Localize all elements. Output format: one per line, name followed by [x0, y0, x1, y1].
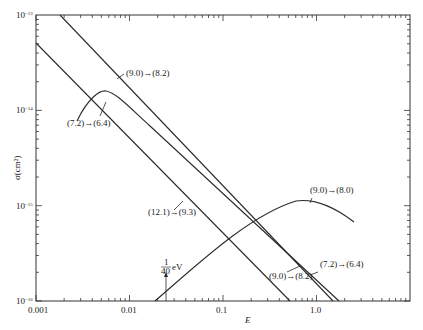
y-tick-label: 10−14 — [16, 105, 33, 115]
y-tick-label: 10−13 — [16, 10, 33, 20]
annotation-label: (12.1)→(9.3) — [148, 207, 196, 217]
curve-7.2-6.4 — [77, 91, 339, 301]
annotation-label: (7.2)→(6.4) — [320, 259, 364, 269]
y-axis-label: σ(cm²) — [12, 155, 22, 180]
svg-text:10−15: 10−15 — [16, 201, 33, 211]
curve-12.1-9.3 — [36, 43, 290, 301]
x-tick-label: 1.0 — [310, 305, 322, 315]
svg-text:10−14: 10−14 — [16, 105, 33, 115]
x-tick-label: 0.1 — [216, 305, 227, 315]
cross-section-chart: 0.001 0.01 0.1 1.0 E 10−13 10−14 10−15 1… — [0, 0, 423, 330]
svg-text:eV: eV — [172, 262, 183, 272]
annotation-label: (7.2)→(6.4) — [67, 118, 111, 128]
annotation-label: (9.0)→(8.2) — [269, 271, 313, 281]
x-axis-label: E — [244, 315, 251, 325]
x-tick-label: 0.01 — [121, 305, 137, 315]
svg-text:10−13: 10−13 — [16, 10, 33, 20]
annotation-label: (9.0)→(8.0) — [310, 185, 354, 195]
quarter-ev-label: 1 40 eV — [161, 257, 183, 276]
svg-text:40: 40 — [161, 266, 171, 276]
annotation-arrow — [310, 198, 312, 203]
x-tick-label: 0.001 — [28, 305, 48, 315]
annotation-label: (9.0)→(8.2) — [126, 68, 170, 78]
y-tick-label: 10−15 — [16, 201, 33, 211]
